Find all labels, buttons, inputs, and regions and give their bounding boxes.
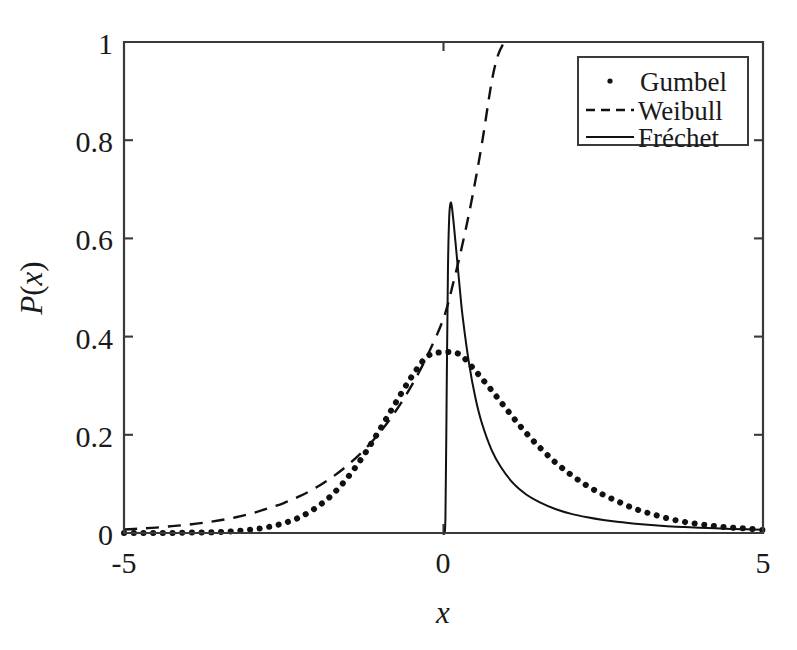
- legend-label-weibull: Weibull: [638, 96, 723, 126]
- chart-legend[interactable]: Gumbel Weibull Fréchet: [578, 57, 748, 153]
- y-axis-title-paren-close: ): [14, 261, 49, 271]
- legend-label-gumbel: Gumbel: [640, 67, 727, 97]
- y-tick-label-0-8: 0.8: [76, 125, 114, 158]
- x-axis-title: x: [435, 595, 450, 630]
- dot-marker-icon: [607, 78, 612, 83]
- svg-text:P(x): P(x): [14, 261, 49, 315]
- distribution-pdf-chart: 1 0.8 0.6 0.4 0.2 0 -5 0 5 x P(x) Gumbel: [0, 0, 797, 650]
- y-axis-title-var: x: [14, 271, 49, 286]
- chart-figure: 1 0.8 0.6 0.4 0.2 0 -5 0 5 x P(x) Gumbel: [0, 0, 797, 650]
- x-tick-label-5: 5: [756, 546, 771, 579]
- y-tick-label-0-2: 0.2: [76, 420, 114, 453]
- legend-label-frechet: Fréchet: [638, 123, 719, 153]
- y-tick-label-0-6: 0.6: [76, 223, 114, 256]
- y-axis-title: P(x): [14, 261, 49, 315]
- y-axis-title-p: P: [14, 296, 49, 316]
- x-tick-label-0: 0: [436, 546, 451, 579]
- x-tick-label-minus-5: -5: [112, 546, 137, 579]
- y-axis-title-paren-open: (: [14, 285, 49, 295]
- y-tick-label-0-4: 0.4: [76, 322, 114, 355]
- y-tick-label-1: 1: [98, 27, 113, 60]
